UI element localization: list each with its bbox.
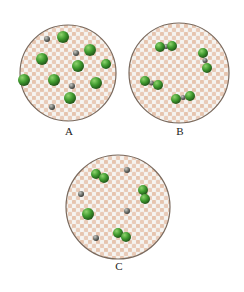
gray-particle xyxy=(73,50,79,56)
gray-particle xyxy=(49,104,55,110)
green-particle xyxy=(57,31,69,43)
diagram-canvas xyxy=(0,0,244,292)
panel-label-b: B xyxy=(176,125,183,137)
green-particle xyxy=(101,59,111,69)
gray-particle xyxy=(78,191,84,197)
gray-particle xyxy=(44,36,50,42)
gray-particle xyxy=(124,167,130,173)
green-particle xyxy=(64,92,76,104)
green-particle xyxy=(48,74,60,86)
panel-label-a: A xyxy=(65,125,73,137)
gray-particle xyxy=(69,83,75,89)
solution-circle-b xyxy=(129,23,229,123)
solution-circle-c xyxy=(66,155,170,259)
green-particle xyxy=(18,74,30,86)
gray-particle xyxy=(93,235,99,241)
green-particle xyxy=(72,60,84,72)
panel-label-c: C xyxy=(115,260,122,272)
green-particle xyxy=(90,77,102,89)
green-particle xyxy=(82,208,94,220)
gray-particle xyxy=(124,208,130,214)
green-particle xyxy=(84,44,96,56)
solution-circle-a xyxy=(18,25,116,121)
green-particle xyxy=(36,53,48,65)
